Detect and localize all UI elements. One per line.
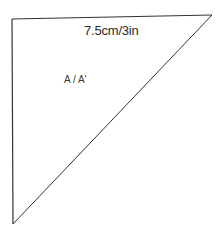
dimension-label: 7.5cm/3in [84, 23, 139, 38]
piece-label: A / A' [64, 74, 86, 85]
hypotenuse-edge [13, 15, 212, 224]
left-edge [12, 19, 13, 224]
top-edge [12, 15, 212, 19]
